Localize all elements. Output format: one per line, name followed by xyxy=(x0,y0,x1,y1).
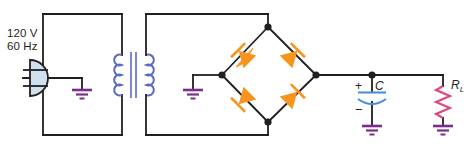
ground-capacitor-icon xyxy=(362,126,382,135)
node-output-tap xyxy=(368,71,375,78)
ground-load-icon xyxy=(433,126,453,135)
step-down-transformer-icon xyxy=(114,52,154,98)
resistor-label-subscript: L xyxy=(460,85,464,94)
circuit-diagram-canvas: 120 V 60 Hz + − C RL xyxy=(0,0,475,152)
d2-tri xyxy=(280,44,304,68)
diode-bottom-right xyxy=(279,83,306,110)
ground-secondary-icon xyxy=(183,90,203,99)
bridge-junction-dots xyxy=(218,23,319,125)
node-bridge-top xyxy=(264,23,271,30)
d4-tri xyxy=(280,85,304,109)
load-resistor-label: RL xyxy=(451,79,464,95)
diode-top-left xyxy=(230,42,257,69)
secondary-loop-wires xyxy=(146,14,268,135)
capacitor-label: C xyxy=(375,80,384,93)
capacitor-minus-sign: − xyxy=(355,103,363,118)
ground-primary-icon xyxy=(72,90,92,99)
bridge-rectifier-wires xyxy=(222,27,316,122)
capacitor-plus-sign: + xyxy=(355,80,362,93)
resistor-label-base: R xyxy=(451,78,460,92)
bridge-arm-top-left xyxy=(222,27,268,75)
transformer-secondary-coil xyxy=(146,55,154,96)
plug-body xyxy=(30,60,48,96)
schematic-svg xyxy=(0,0,475,152)
node-bridge-bottom xyxy=(264,118,271,125)
transformer-primary-coil xyxy=(114,55,122,96)
source-frequency-label: 60 Hz xyxy=(7,40,38,53)
diode-top-right xyxy=(279,42,306,69)
node-bridge-left xyxy=(218,71,225,78)
load-resistor-icon xyxy=(436,86,450,118)
source-label: 120 V 60 Hz xyxy=(7,27,38,53)
source-voltage-label: 120 V xyxy=(7,27,38,40)
resistor-zigzag xyxy=(436,86,450,118)
diode-bottom-left xyxy=(230,86,257,113)
